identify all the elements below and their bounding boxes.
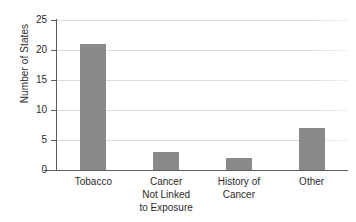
y-tick-mark: [51, 80, 57, 81]
bar-chart: Number of States 0510152025 TobaccoCance…: [0, 0, 356, 222]
x-tick-label: Other: [264, 175, 356, 188]
gridline: [57, 20, 348, 21]
y-tick-mark: [51, 50, 57, 51]
y-tick-label: 20: [21, 45, 47, 55]
y-tick-label: 15: [21, 75, 47, 85]
y-tick-mark: [51, 20, 57, 21]
y-tick-mark: [51, 110, 57, 111]
plot-area: [57, 20, 348, 170]
y-tick-label: 25: [21, 15, 47, 25]
x-tick-label-line: Cancer: [191, 188, 287, 201]
y-tick-label: 5: [21, 135, 47, 145]
bar: [226, 158, 252, 170]
bar: [153, 152, 179, 170]
y-tick-label: 0: [21, 165, 47, 175]
y-tick-label: 10: [21, 105, 47, 115]
x-tick-label-line: Other: [264, 175, 356, 188]
bar: [80, 44, 106, 170]
y-tick-mark: [51, 140, 57, 141]
bar: [299, 128, 325, 170]
x-tick-label-line: to Exposure: [118, 201, 214, 214]
y-tick-mark: [51, 170, 57, 171]
